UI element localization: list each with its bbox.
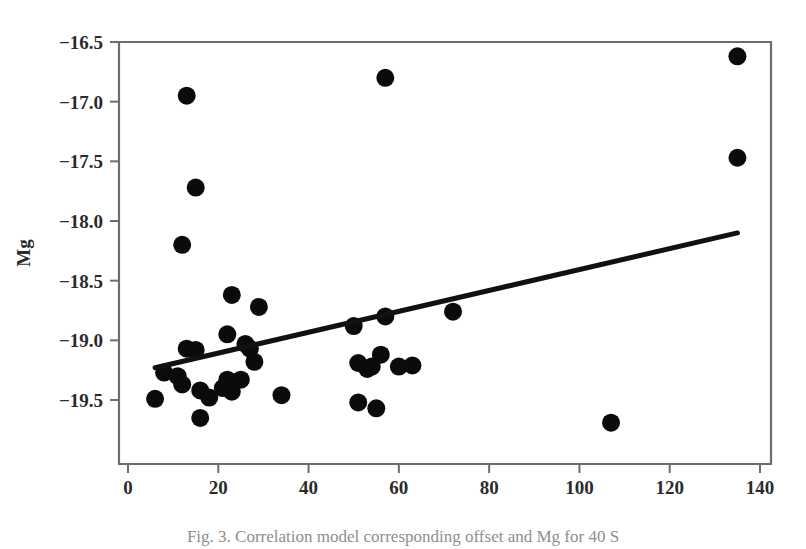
y-tick-label: −18.0 xyxy=(59,211,103,232)
x-tick-label: 120 xyxy=(655,477,684,498)
y-tick-label: −16.5 xyxy=(59,32,103,53)
data-point xyxy=(232,371,250,389)
data-point xyxy=(403,356,421,374)
scatter-plot: 020406080100120140 −16.5−17.0−17.5−18.0−… xyxy=(0,0,806,500)
data-point xyxy=(272,386,290,404)
x-tick-label: 20 xyxy=(209,477,228,498)
x-axis-ticks: 020406080100120140 xyxy=(123,464,774,498)
figure-container: 020406080100120140 −16.5−17.0−17.5−18.0−… xyxy=(0,0,806,549)
data-point xyxy=(372,346,390,364)
x-tick-label: 140 xyxy=(746,477,775,498)
figure-caption: Fig. 3. Correlation model corresponding … xyxy=(0,524,806,549)
data-point xyxy=(376,69,394,87)
y-tick-label: −17.5 xyxy=(59,151,103,172)
data-point xyxy=(191,409,209,427)
x-tick-label: 60 xyxy=(389,477,408,498)
data-point xyxy=(178,87,196,105)
y-axis-title: Mg xyxy=(13,239,34,267)
y-tick-label: −19.5 xyxy=(59,390,103,411)
regression-line xyxy=(155,233,737,368)
data-point xyxy=(602,414,620,432)
data-points xyxy=(146,47,746,431)
x-tick-label: 100 xyxy=(565,477,594,498)
x-tick-label: 40 xyxy=(299,477,318,498)
data-point xyxy=(218,325,236,343)
data-point xyxy=(349,393,367,411)
data-point xyxy=(146,390,164,408)
data-point xyxy=(444,303,462,321)
data-point xyxy=(173,375,191,393)
fit-line xyxy=(155,233,737,368)
data-point xyxy=(245,353,263,371)
x-tick-label: 0 xyxy=(123,477,133,498)
data-point xyxy=(187,179,205,197)
data-point xyxy=(250,298,268,316)
data-point xyxy=(367,399,385,417)
data-point xyxy=(728,149,746,167)
x-tick-label: 80 xyxy=(480,477,499,498)
y-axis-ticks: −16.5−17.0−17.5−18.0−18.5−19.0−19.5 xyxy=(59,32,119,411)
data-point xyxy=(728,47,746,65)
y-tick-label: −17.0 xyxy=(59,92,103,113)
data-point xyxy=(223,286,241,304)
y-tick-label: −18.5 xyxy=(59,271,103,292)
data-point xyxy=(173,236,191,254)
data-point xyxy=(200,389,218,407)
y-tick-label: −19.0 xyxy=(59,330,103,351)
